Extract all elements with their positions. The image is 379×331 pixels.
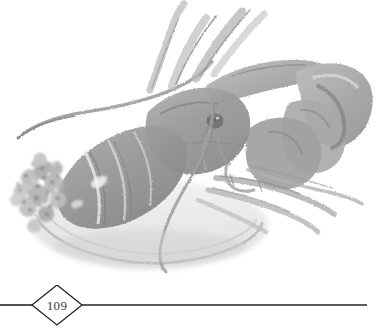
footer-rule-svg: 109 [0,285,379,331]
paper-grain-overlay [0,0,379,290]
lobster-illustration-svg [0,0,379,290]
lobster-illustration [0,0,379,290]
page-footer: 109 [0,285,379,331]
page-number: 109 [47,298,68,313]
book-page: 109 [0,0,379,331]
